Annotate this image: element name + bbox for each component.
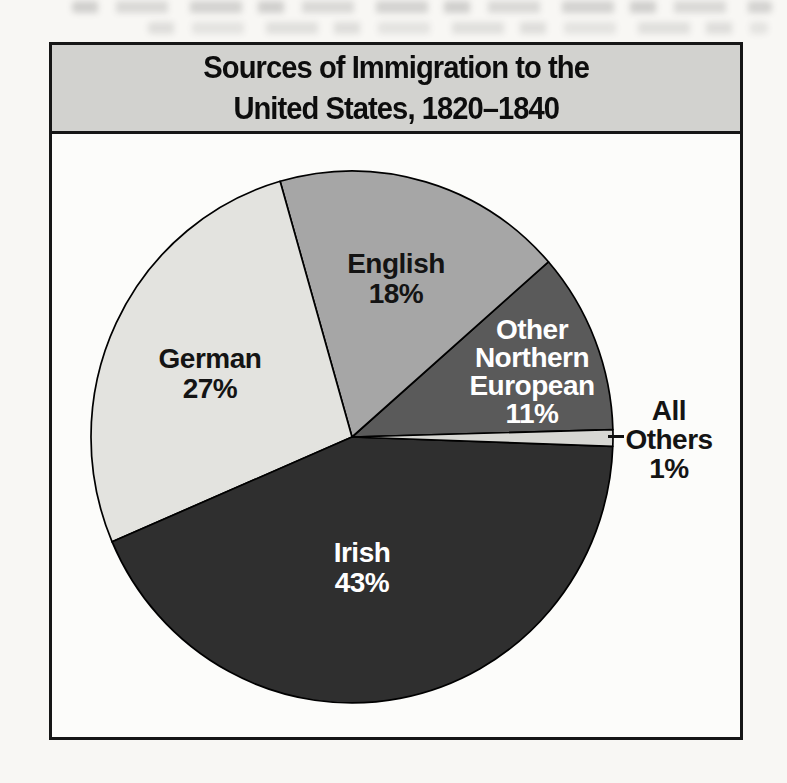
pie-svg xyxy=(52,45,740,737)
scan-artifact-top-1 xyxy=(72,1,772,13)
all-others-leader-line xyxy=(608,435,624,438)
scan-artifact-top-2 xyxy=(148,22,768,34)
chart-box: Sources of Immigration to the United Sta… xyxy=(49,42,743,740)
